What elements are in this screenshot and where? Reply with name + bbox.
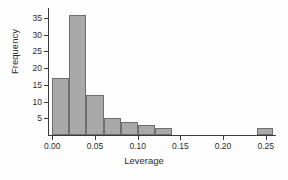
y-tick [44, 51, 48, 52]
y-axis-title: Frequency [9, 12, 20, 92]
x-tick-label: 0.00 [44, 141, 61, 151]
x-tick [138, 136, 139, 140]
y-tick-label: 10 [33, 97, 42, 107]
y-tick [44, 102, 48, 103]
histogram-bar [121, 122, 138, 135]
histogram-bar [69, 15, 86, 135]
x-tick [52, 136, 53, 140]
x-tick [95, 136, 96, 140]
x-tick [180, 136, 181, 140]
histogram-bar [86, 95, 103, 135]
x-axis-line [48, 135, 276, 136]
histogram-bar [155, 128, 172, 135]
y-tick-label: 35 [33, 13, 42, 23]
y-tick-label: 5 [37, 113, 42, 123]
x-tick [223, 136, 224, 140]
histogram-bar [52, 78, 69, 135]
y-tick-label: 30 [33, 30, 42, 40]
x-tick-label: 0.10 [129, 141, 146, 151]
y-tick [44, 118, 48, 119]
y-tick [44, 18, 48, 19]
x-tick [266, 136, 267, 140]
y-axis-line [48, 8, 49, 135]
x-tick-label: 0.05 [87, 141, 104, 151]
x-tick-label: 0.15 [172, 141, 189, 151]
histogram-bar [257, 128, 272, 135]
x-tick-label: 0.20 [215, 141, 232, 151]
y-tick-label: 20 [33, 63, 42, 73]
histogram-figure: 5101520253035 0.000.050.100.150.200.25 L… [0, 0, 288, 180]
y-tick [44, 35, 48, 36]
x-axis-title: Leverage [0, 155, 288, 166]
histogram-bar [104, 118, 121, 135]
y-tick [44, 68, 48, 69]
histogram-bar [138, 125, 155, 135]
y-tick-label-group: 5101520253035 [0, 0, 42, 180]
y-tick-label: 15 [33, 80, 42, 90]
x-tick-label: 0.25 [257, 141, 274, 151]
y-tick [44, 85, 48, 86]
y-tick-label: 25 [33, 46, 42, 56]
